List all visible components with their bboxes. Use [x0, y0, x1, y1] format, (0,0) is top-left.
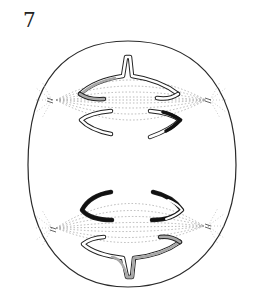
- lower-chromosome-bottom: [83, 237, 180, 277]
- upper-chromosome-bottom: [81, 111, 180, 137]
- cell-diagram: [0, 0, 258, 307]
- lower-chromosome-top: [82, 192, 182, 220]
- upper-chromosome-top: [80, 57, 178, 99]
- upper-spindle-fibers: [56, 80, 206, 120]
